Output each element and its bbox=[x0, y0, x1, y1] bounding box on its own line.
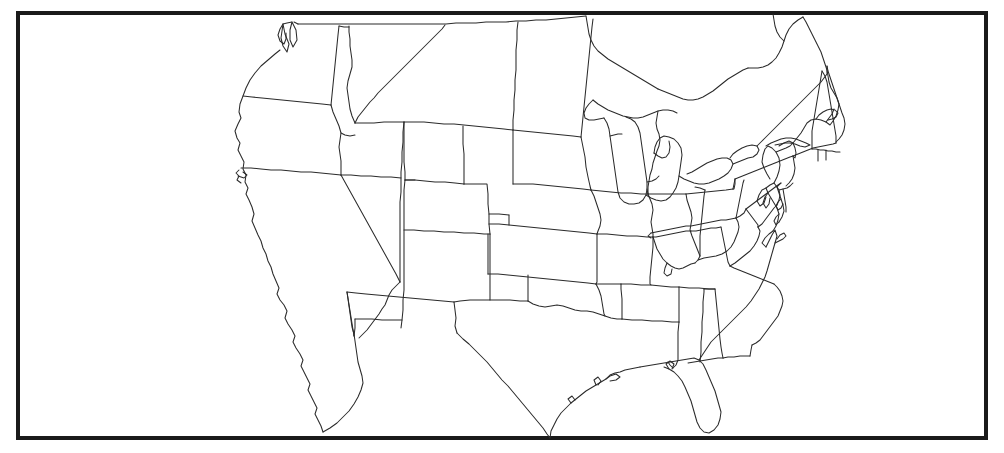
map-figure: Blank outline map of the contiguous Unit… bbox=[0, 0, 1004, 453]
state-boundaries-south bbox=[622, 218, 783, 368]
national-outline bbox=[235, 14, 839, 438]
state-boundaries-plains bbox=[488, 19, 622, 319]
state-boundaries-west bbox=[241, 25, 513, 338]
coastal-detail bbox=[278, 24, 786, 243]
us-states-outline-map bbox=[0, 0, 1004, 453]
